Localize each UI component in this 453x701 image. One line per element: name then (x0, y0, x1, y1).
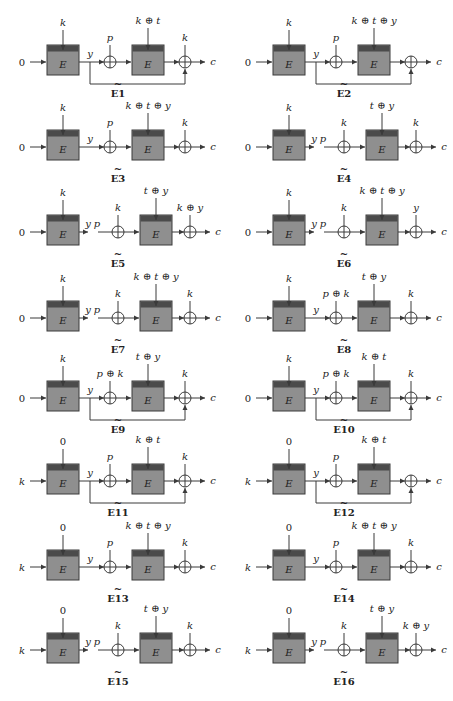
caption-text: E3 (111, 173, 126, 184)
p-label: p (107, 451, 114, 462)
xor-out-icon (179, 392, 191, 404)
caption-text: E15 (107, 676, 129, 687)
cipher-label: E (284, 395, 293, 406)
diagram-caption: E4~ (337, 163, 352, 184)
cipher-label: E (143, 59, 152, 70)
cipher-label: E (58, 144, 67, 155)
key1-label: 0 (286, 522, 292, 533)
cipher-label: E (369, 59, 378, 70)
y-label: y (84, 304, 91, 315)
p-xor-label: k (341, 117, 347, 128)
cipher-label: E (284, 647, 293, 658)
caption-tilde: ~ (114, 666, 122, 677)
cipher-label: E (284, 315, 293, 326)
cipher-label: E (58, 647, 67, 658)
key2-label: k ⊕ t (136, 434, 162, 445)
cipher-label: E (58, 395, 67, 406)
p-label: p (320, 133, 327, 144)
output-label: c (215, 226, 221, 237)
cipher-label: E (143, 478, 152, 489)
y-label: y (86, 48, 93, 59)
diagram-e11: kE0ypEk ⊕ tkcE11~ (19, 434, 216, 518)
output-label: c (436, 561, 442, 572)
xor-p-icon (104, 141, 116, 153)
p-label: p (333, 537, 340, 548)
key2-label: k ⊕ t ⊕ y (125, 100, 171, 111)
diagram-caption: E12~ (333, 497, 355, 518)
caption-tilde: ~ (340, 248, 348, 259)
key1-label: k (60, 102, 66, 113)
key2-label: k ⊕ t ⊕ y (125, 520, 171, 531)
cipher-label: E (58, 478, 67, 489)
out-xor-label: k (408, 368, 414, 379)
cipher-label: E (377, 144, 386, 155)
diagram-grid: 0EkypEk ⊕ tkcE1~0EkypEk ⊕ t ⊕ ycE2~0Ekyp… (19, 15, 447, 687)
out-xor-label: k (182, 117, 188, 128)
y-label: y (84, 636, 91, 647)
input-label: 0 (245, 57, 251, 68)
caption-text: E11 (107, 507, 129, 518)
xor-p-icon (104, 561, 116, 573)
diagram-caption: E7~ (111, 334, 126, 355)
xor-out-icon (405, 561, 417, 573)
y-label: y (86, 553, 93, 564)
caption-tilde: ~ (114, 414, 122, 425)
key1-label: k (286, 187, 292, 198)
diagram-e2: 0EkypEk ⊕ t ⊕ ycE2~ (245, 15, 442, 99)
out-xor-label: k (182, 368, 188, 379)
caption-tilde: ~ (114, 583, 122, 594)
output-label: c (210, 392, 216, 403)
diagram-e15: kE0ypkEt ⊕ ykcE15~ (19, 603, 221, 687)
key1-label: k (286, 273, 292, 284)
input-label: 0 (19, 57, 25, 68)
caption-text: E16 (333, 676, 355, 687)
input-label: 0 (245, 227, 251, 238)
p-label: p ⊕ k (322, 288, 349, 299)
cipher-label: E (369, 395, 378, 406)
key1-label: 0 (286, 436, 292, 447)
xor-pk-icon (112, 226, 124, 238)
key1-label: k (60, 187, 66, 198)
key2-label: k ⊕ t (136, 15, 162, 26)
xor-out-icon (179, 475, 191, 487)
y-label: y (310, 636, 317, 647)
cipher-label: E (143, 395, 152, 406)
xor-out-icon (179, 141, 191, 153)
xor-p-icon (330, 561, 342, 573)
caption-tilde: ~ (340, 334, 348, 345)
input-label: k (245, 645, 251, 656)
caption-text: E14 (333, 593, 355, 604)
input-label: k (19, 645, 25, 656)
key1-label: k (60, 17, 66, 28)
diagram-e14: kE0ypEk ⊕ t ⊕ ykcE14~ (245, 520, 442, 604)
y-label: y (312, 304, 319, 315)
input-label: 0 (245, 142, 251, 153)
caption-tilde: ~ (114, 497, 122, 508)
diagram-e6: 0EkypkEk ⊕ t ⊕ yycE6~ (245, 185, 447, 269)
output-label: c (210, 561, 216, 572)
input-label: k (245, 562, 251, 573)
key2-label: t ⊕ y (136, 351, 161, 362)
key1-label: k (60, 353, 66, 364)
p-xor-label: k (115, 202, 121, 213)
cipher-label: E (151, 315, 160, 326)
cipher-label: E (151, 229, 160, 240)
xor-p-icon (330, 475, 342, 487)
input-label: 0 (245, 313, 251, 324)
xor-p-icon (330, 56, 342, 68)
key1-label: k (286, 17, 292, 28)
y-label: y (312, 467, 319, 478)
diagram-caption: E2~ (337, 78, 352, 99)
input-label: 0 (19, 393, 25, 404)
output-label: c (436, 312, 442, 323)
out-xor-label: k ⊕ y (403, 620, 430, 631)
y-label: y (310, 218, 317, 229)
cipher-label: E (369, 564, 378, 575)
out-xor-label: k (408, 537, 414, 548)
xor-out-icon (179, 56, 191, 68)
out-xor-label: k (187, 620, 193, 631)
key2-label: t ⊕ y (362, 271, 387, 282)
out-xor-label: k (413, 117, 419, 128)
p-label: p (94, 304, 101, 315)
xor-p-icon (330, 392, 342, 404)
